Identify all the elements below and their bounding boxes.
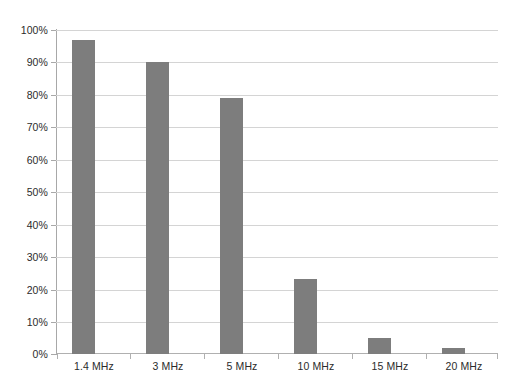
gridline-80 [56,95,498,96]
x-tick-label-10-mhz: 10 MHz [279,361,353,372]
bar-15-mhz [368,338,391,354]
gridline-60 [56,160,498,161]
bar-1-4-mhz [72,40,95,354]
bar-chart: 100% 90% 80% 70% 60% 50% 40% 30% 20% 10%… [0,0,520,392]
y-tick-label-30: 30% [4,252,48,263]
y-tick-label-60: 60% [4,155,48,166]
x-tick-mark-3 [278,354,279,359]
y-tick-label-70: 70% [4,122,48,133]
gridline-100 [56,30,498,31]
y-tick-label-40: 40% [4,220,48,231]
y-tick-label-50: 50% [4,187,48,198]
bar-20-mhz [442,348,465,354]
x-tick-mark-2 [204,354,205,359]
bar-5-mhz [220,98,243,354]
x-tick-mark-6 [497,354,498,359]
bar-10-mhz [294,279,317,354]
gridline-50 [56,192,498,193]
y-axis-tick-labels: 100% 90% 80% 70% 60% 50% 40% 30% 20% 10%… [0,0,48,392]
x-tick-label-1-4-mhz: 1.4 MHz [57,361,131,372]
y-tick-label-20: 20% [4,285,48,296]
x-tick-mark-1 [130,354,131,359]
gridline-baseline-0 [56,353,498,354]
gridline-10 [56,322,498,323]
y-tick-label-0: 0% [4,349,48,360]
gridline-20 [56,290,498,291]
bar-3-mhz [146,62,169,354]
x-tick-mark-4 [352,354,353,359]
x-tick-mark-5 [426,354,427,359]
x-tick-label-20-mhz: 20 MHz [427,361,501,372]
gridline-30 [56,257,498,258]
y-tick-label-80: 80% [4,90,48,101]
gridline-40 [56,225,498,226]
plot-area [56,30,498,354]
gridline-70 [56,127,498,128]
gridline-90 [56,62,498,63]
x-tick-label-15-mhz: 15 MHz [353,361,427,372]
y-tick-label-100: 100% [4,25,48,36]
y-tick-label-90: 90% [4,57,48,68]
x-tick-mark-0 [57,354,58,359]
y-tick-label-10: 10% [4,317,48,328]
x-tick-label-3-mhz: 3 MHz [131,361,205,372]
x-tick-label-5-mhz: 5 MHz [205,361,279,372]
